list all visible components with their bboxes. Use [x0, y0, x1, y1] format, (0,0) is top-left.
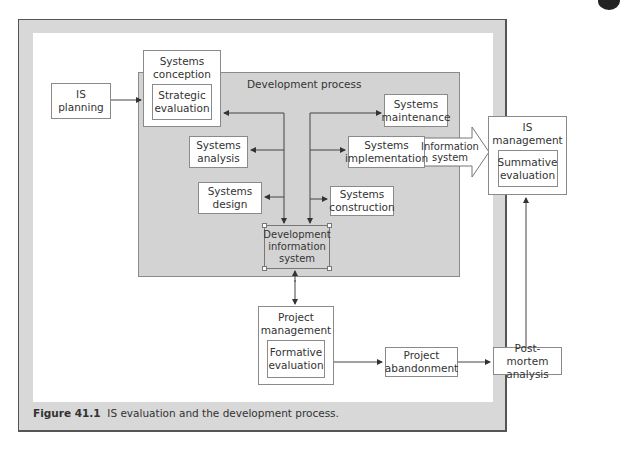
figure-caption: Figure 41.1 IS evaluation and the develo…	[33, 407, 339, 419]
node-formative-evaluation: Formative evaluation	[267, 340, 325, 378]
selection-handle	[262, 223, 267, 228]
node-label: IS management	[492, 121, 562, 147]
node-label: Systems maintenance	[382, 98, 451, 124]
node-development-information-system: Development information system	[264, 225, 330, 269]
node-label: Summative evaluation	[498, 156, 558, 182]
node-systems-analysis: Systems analysis	[189, 136, 248, 168]
node-label: IS planning	[58, 88, 104, 114]
information-system-arrow: Information system	[425, 139, 475, 165]
node-label: Formative evaluation	[268, 346, 323, 372]
node-label: Systems construction	[329, 188, 394, 214]
node-label: Systems design	[208, 185, 253, 211]
selection-handle	[262, 266, 267, 271]
node-systems-maintenance: Systems maintenance	[384, 94, 448, 127]
node-label: Development information system	[263, 229, 330, 265]
node-label: Systems analysis	[196, 139, 241, 165]
node-systems-conception: Systems conception Strategic evaluation	[143, 50, 221, 127]
node-label: Project management	[261, 311, 331, 337]
selection-handle	[327, 266, 332, 271]
caption-label: Figure 41.1	[33, 407, 101, 419]
node-strategic-evaluation: Strategic evaluation	[152, 84, 212, 120]
node-project-abandonment: Project abandonment	[385, 347, 458, 377]
node-post-mortem-analysis: Post-mortem analysis	[493, 347, 562, 375]
node-summative-evaluation: Summative evaluation	[498, 150, 558, 187]
node-project-management: Project management Formative evaluation	[258, 306, 334, 385]
selection-handle	[327, 223, 332, 228]
node-systems-design: Systems design	[198, 182, 262, 214]
caption-text: IS evaluation and the development proces…	[107, 407, 339, 419]
node-label: Systems implementation	[345, 139, 428, 165]
node-label: Information system	[421, 141, 479, 163]
node-systems-implementation: Systems implementation	[348, 136, 425, 168]
node-is-management: IS management Summative evaluation	[488, 116, 567, 195]
node-systems-construction: Systems construction	[330, 186, 394, 216]
node-label: Strategic evaluation	[154, 89, 209, 115]
node-label: Post-mortem analysis	[494, 342, 561, 381]
node-label: Project abandonment	[385, 349, 458, 375]
node-is-planning: IS planning	[51, 83, 111, 119]
node-label: Systems conception	[153, 55, 211, 81]
